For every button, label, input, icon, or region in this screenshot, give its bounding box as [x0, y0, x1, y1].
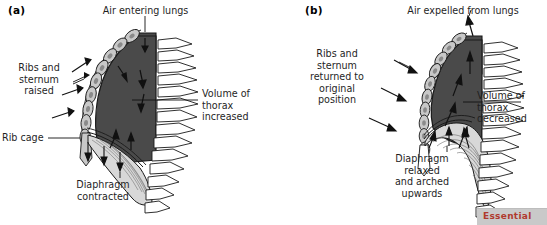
label-rib-cage: Rib cage — [2, 132, 52, 144]
label-diaphragm-contracted: Diaphragm contracted — [63, 179, 143, 202]
cropped-overlay-bar: Essential — [477, 208, 547, 225]
label-ribs-sternum-returned: Ribs and sternum returned to original po… — [291, 48, 383, 106]
label-ribs-sternum-raised: Ribs and sternum raised — [6, 62, 72, 97]
panel-inhalation: (a) — [0, 0, 273, 225]
spine-shape — [476, 42, 524, 217]
leader-ribs-arrowhead — [84, 72, 90, 79]
panel-exhalation: (b) — [273, 0, 546, 225]
label-volume-thorax-decreased: Volume of thorax decreased — [477, 90, 547, 125]
cropped-overlay-text: Essential — [477, 209, 547, 221]
label-air-entering-lungs: Air entering lungs — [78, 5, 213, 17]
label-air-expelled-from-lungs: Air expelled from lungs — [383, 5, 543, 17]
leader-ribs-returned — [399, 62, 411, 68]
label-diaphragm-relaxed: Diaphragm relaxed and arched upwards — [381, 153, 463, 199]
label-volume-thorax-increased: Volume of thorax increased — [202, 88, 272, 123]
